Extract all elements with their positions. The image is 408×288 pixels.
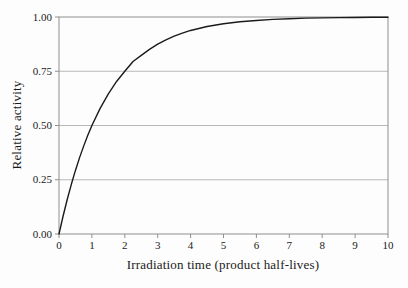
x-tick-label: 4 <box>188 239 194 251</box>
x-tick-label: 3 <box>155 239 161 251</box>
y-tick-label: 0.50 <box>33 119 53 131</box>
x-tick-label: 5 <box>221 239 227 251</box>
x-tick-label: 6 <box>254 239 260 251</box>
activation-growth-chart: 0123456789100.000.250.500.751.00 Relativ… <box>0 0 408 288</box>
x-tick-label: 2 <box>122 239 128 251</box>
y-tick-label: 1.00 <box>33 11 53 23</box>
y-tick-label: 0.00 <box>33 228 53 240</box>
x-tick-label: 0 <box>56 239 62 251</box>
plot-canvas: 0123456789100.000.250.500.751.00 <box>0 0 408 288</box>
x-axis-title: Irradiation time (product half-lives) <box>127 257 320 273</box>
x-tick-label: 8 <box>319 239 325 251</box>
x-tick-label: 7 <box>287 239 293 251</box>
x-tick-label: 1 <box>89 239 95 251</box>
y-tick-label: 0.75 <box>33 65 53 77</box>
y-tick-label: 0.25 <box>33 173 53 185</box>
x-tick-label: 9 <box>352 239 358 251</box>
x-tick-label: 10 <box>383 239 395 251</box>
y-axis-title: Relative activity <box>9 81 25 170</box>
